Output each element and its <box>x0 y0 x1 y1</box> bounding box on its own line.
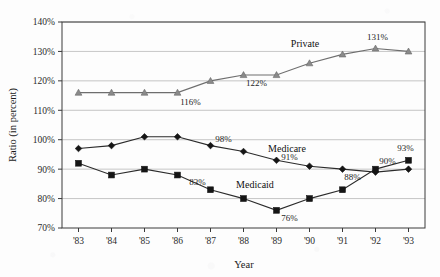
x-tick-label: '87 <box>205 236 216 246</box>
data-point-square <box>373 166 379 172</box>
data-label: 131% <box>367 32 389 42</box>
data-point-diamond <box>174 133 181 140</box>
y-tick-label: 110% <box>33 106 55 116</box>
x-tick-label: '90 <box>304 236 315 246</box>
y-tick-label: 120% <box>33 76 55 86</box>
data-label: 76% <box>281 213 298 223</box>
data-point-diamond <box>405 166 412 173</box>
data-label: 98% <box>215 134 232 144</box>
data-point-diamond <box>207 142 214 149</box>
y-tick-label: 90% <box>38 165 56 175</box>
data-point-diamond <box>141 133 148 140</box>
x-axis-title: Year <box>234 259 254 270</box>
x-axis-ticks: '83'84'85'86'87'88'89'90'91'92'93 <box>73 228 414 246</box>
data-point-square <box>274 207 280 213</box>
data-point-triangle <box>372 45 379 51</box>
data-label: 88% <box>344 172 361 182</box>
data-point-square <box>340 187 346 193</box>
x-tick-label: '86 <box>172 236 183 246</box>
x-tick-label: '92 <box>370 236 381 246</box>
data-label: 116% <box>180 97 201 107</box>
series-label-private: Private <box>291 38 320 49</box>
y-axis-ticks: 70%80%90%100%110%120%130%140% <box>33 17 62 233</box>
y-tick-label: 70% <box>38 223 56 233</box>
data-label: 90% <box>379 156 396 166</box>
x-tick-label: '91 <box>337 236 348 246</box>
chart-container: 70%80%90%100%110%120%130%140% '83'84'85'… <box>0 0 440 277</box>
data-point-diamond <box>75 145 82 152</box>
x-tick-label: '85 <box>139 236 150 246</box>
data-point-diamond <box>306 163 313 170</box>
y-tick-label: 100% <box>33 135 55 145</box>
data-point-square <box>208 187 214 193</box>
y-axis-title: Ratio (in percent) <box>7 87 19 162</box>
x-tick-label: '88 <box>238 236 249 246</box>
data-point-square <box>241 196 247 202</box>
data-point-square <box>307 196 313 202</box>
data-point-diamond <box>273 157 280 164</box>
x-tick-label: '84 <box>106 236 117 246</box>
x-tick-label: '93 <box>403 236 414 246</box>
data-point-square <box>76 160 82 166</box>
x-tick-label: '89 <box>271 236 282 246</box>
data-point-square <box>109 172 115 178</box>
data-point-square <box>406 157 412 163</box>
data-label: 122% <box>246 78 268 88</box>
data-labels-layer: 116%122%131%98%91%88%83%76%90%93%Private… <box>180 32 414 223</box>
data-point-diamond <box>108 142 115 149</box>
data-point-square <box>175 172 181 178</box>
series-line-private <box>79 49 409 93</box>
data-label: 83% <box>189 177 206 187</box>
series-label-medicaid: Medicaid <box>236 179 274 190</box>
data-point-diamond <box>240 148 247 155</box>
ratio-line-chart: 70%80%90%100%110%120%130%140% '83'84'85'… <box>0 0 440 277</box>
series-label-medicare: Medicare <box>268 143 306 154</box>
y-tick-label: 140% <box>33 17 55 27</box>
x-tick-label: '83 <box>73 236 84 246</box>
data-point-square <box>142 166 148 172</box>
y-tick-label: 80% <box>38 194 56 204</box>
y-tick-label: 130% <box>33 47 55 57</box>
data-label: 93% <box>397 143 414 153</box>
